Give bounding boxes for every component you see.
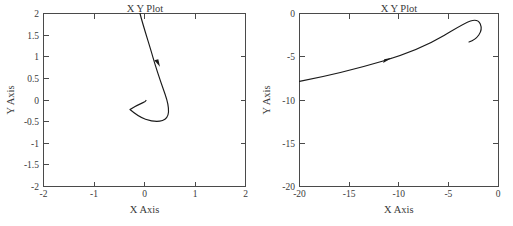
y-tick-label: -20	[282, 182, 295, 192]
x-tick-label: -10	[392, 189, 405, 199]
y-tick-labels-right: 0 -5 -10 -15 -20	[282, 9, 295, 192]
data-curve-left	[130, 14, 169, 122]
y-axis-label-left: Y Axis	[5, 85, 16, 114]
y-tick-label: 1	[34, 52, 39, 62]
data-curve-right	[300, 20, 482, 81]
y-tick-label: -15	[282, 139, 295, 149]
y-tick-label: -1.5	[24, 160, 39, 170]
x-tick-label: 0	[142, 189, 147, 199]
chart-svg-left: X Y Plot	[0, 0, 256, 226]
x-tick-labels-right: -20 -15 -10 -5 0	[293, 189, 500, 199]
figure-canvas: X Y Plot	[0, 0, 513, 226]
y-tick-label: 1.5	[27, 31, 39, 41]
x-tick-label: -20	[293, 189, 306, 199]
plot-frame-right	[300, 14, 499, 187]
chart-title-left: X Y Plot	[127, 3, 164, 14]
x-tick-label: -5	[444, 189, 452, 199]
x-axis-label-left: X Axis	[130, 204, 159, 215]
y-tick-label: 0	[290, 9, 295, 19]
chart-title-right: X Y Plot	[381, 3, 418, 14]
y-tick-label: 0	[34, 96, 39, 106]
y-tick-label: -1	[31, 139, 39, 149]
x-tick-label: 0	[496, 189, 501, 199]
x-axis-label-right: X Axis	[384, 204, 413, 215]
x-tick-label: 2	[243, 189, 248, 199]
x-tick-label: 1	[193, 189, 198, 199]
y-tick-marks-left	[44, 14, 246, 187]
y-tick-label: -2	[31, 182, 39, 192]
chart-panel-right[interactable]: X Y Plot	[256, 0, 513, 226]
y-tick-label: 2	[34, 9, 39, 19]
x-tick-label: -15	[343, 189, 356, 199]
x-tick-marks-left	[44, 14, 246, 188]
x-tick-labels-left: -2 -1 0 1 2	[40, 189, 249, 199]
y-tick-label: -0.5	[24, 117, 39, 127]
plot-frame-left	[44, 14, 246, 187]
y-tick-label: 0.5	[27, 74, 39, 84]
chart-svg-right: X Y Plot	[256, 0, 513, 226]
chart-panel-left[interactable]: X Y Plot	[0, 0, 256, 226]
y-tick-marks-right	[300, 14, 499, 187]
x-tick-marks-right	[300, 14, 499, 188]
y-tick-label: -10	[282, 96, 295, 106]
y-tick-label: -5	[287, 52, 295, 62]
x-tick-label: -2	[40, 189, 48, 199]
y-tick-labels-left: 2 1.5 1 0.5 0 -0.5 -1 -1.5 -2	[24, 9, 39, 192]
y-axis-label-right: Y Axis	[261, 85, 272, 114]
x-tick-label: -1	[90, 189, 98, 199]
